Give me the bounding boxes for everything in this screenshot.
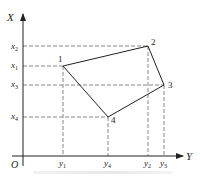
tick-x1: x1	[10, 60, 18, 71]
vertex-label-4: 4	[111, 115, 116, 125]
tick-y2: y2	[143, 158, 151, 169]
horizontal-axis-label: Y	[186, 150, 194, 162]
tick-y3: y3	[159, 158, 167, 169]
vertical-axis-label: X	[6, 11, 15, 23]
vertex-label-3: 3	[168, 80, 173, 90]
tick-y4: y4	[103, 158, 111, 169]
tick-x4: x4	[10, 111, 18, 122]
vertex-label-2: 2	[151, 37, 156, 47]
vertical-tick-labels: x2 x1 x3 x4	[10, 41, 18, 122]
quadrilateral-coordinate-diagram: X Y O x2 x1 x3 x4 y1 y4 y2 y3 1 2 3 4	[0, 0, 200, 179]
quadrilateral-1234	[63, 46, 164, 117]
horizontal-tick-labels: y1 y4 y2 y3	[58, 158, 167, 169]
horizontal-guide-lines	[23, 46, 164, 117]
vertex-labels: 1 2 3 4	[58, 37, 173, 125]
vertex-label-1: 1	[58, 54, 63, 64]
origin-label: O	[11, 159, 18, 170]
tick-x3: x3	[10, 79, 18, 90]
faded-caption	[33, 171, 173, 174]
tick-x2: x2	[10, 41, 18, 52]
tick-y1: y1	[58, 158, 66, 169]
